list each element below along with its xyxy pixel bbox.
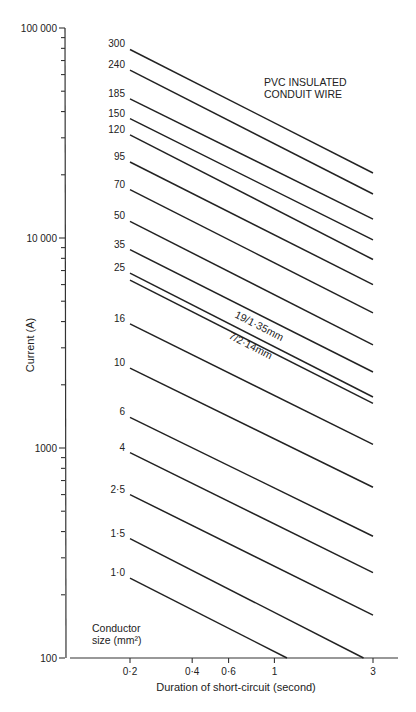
- series-line: [130, 119, 373, 240]
- y-axis-title: Current (A): [24, 318, 36, 372]
- conductor-size-label: 300: [108, 38, 125, 49]
- series-line: [130, 190, 373, 313]
- conductor-size-label: 2·5: [111, 484, 126, 495]
- chart-series: [130, 49, 373, 658]
- x-tick-label: 0·6: [221, 666, 236, 677]
- series-line: [130, 539, 364, 658]
- conductor-size-label: 6: [119, 406, 125, 417]
- chart-title: PVC INSULATED: [264, 76, 347, 88]
- x-tick-label: 0·4: [185, 666, 200, 677]
- conductor-size-label: 240: [108, 59, 125, 70]
- series-line: [130, 250, 373, 372]
- x-tick-label: 0·2: [123, 666, 138, 677]
- conductor-size-label: 16: [114, 313, 126, 324]
- conductor-size-label: 185: [108, 88, 125, 99]
- conductor-size-label: 1·5: [111, 528, 126, 539]
- conductor-size-label: 70: [114, 179, 126, 190]
- legend-title: size (mm²): [92, 634, 142, 646]
- y-tick-label: 100: [40, 653, 57, 664]
- x-tick-label: 3: [370, 666, 376, 677]
- legend-title: Conductor: [92, 622, 141, 634]
- conductor-size-label: 35: [114, 239, 126, 250]
- series-line: [130, 162, 373, 285]
- chart-axes: 100100010 000100 0000·20·40·613Duration …: [21, 23, 398, 694]
- conductor-size-label: 120: [108, 124, 125, 135]
- y-tick-label: 1000: [35, 443, 58, 454]
- chart-title: CONDUIT WIRE: [264, 88, 342, 100]
- conductor-size-label: 1·0: [111, 567, 126, 578]
- y-tick-label: 100 000: [21, 23, 58, 34]
- conductor-size-label: 4: [119, 442, 125, 453]
- y-axis-line: [65, 28, 66, 658]
- series-line: [130, 417, 373, 536]
- conductor-size-label: 95: [114, 151, 126, 162]
- conductor-size-label: 10: [114, 357, 126, 368]
- series-line: [130, 99, 373, 219]
- series-line: [130, 135, 373, 260]
- short-circuit-chart: 100100010 000100 0000·20·40·613Duration …: [0, 0, 416, 712]
- x-axis-title: Duration of short-circuit (second): [156, 681, 316, 693]
- x-tick-label: 1: [272, 666, 278, 677]
- conductor-size-label: 50: [114, 210, 126, 221]
- conductor-size-label: 25: [114, 262, 126, 273]
- series-line: [130, 368, 373, 487]
- conductor-size-label: 150: [108, 108, 125, 119]
- series-line: [130, 273, 373, 397]
- series-line: [130, 49, 373, 172]
- series-line: [130, 578, 287, 658]
- chart-labels: 30024018515012095705035251610642·51·51·0…: [92, 38, 347, 646]
- y-tick-label: 10 000: [26, 233, 57, 244]
